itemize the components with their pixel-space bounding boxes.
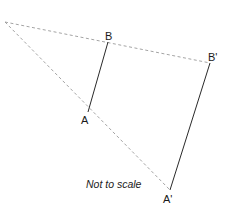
not-to-scale-note: Not to scale xyxy=(86,178,142,190)
ray-centre-to-a-prime xyxy=(5,22,170,190)
label-b: B xyxy=(105,30,112,42)
segment-a-prime-b-prime xyxy=(170,63,210,190)
segment-ab xyxy=(88,42,108,112)
label-a: A xyxy=(81,114,89,126)
label-a-prime: A' xyxy=(163,193,172,205)
label-b-prime: B' xyxy=(208,51,217,63)
enlargement-diagram: B B' A A' Not to scale xyxy=(0,0,226,210)
